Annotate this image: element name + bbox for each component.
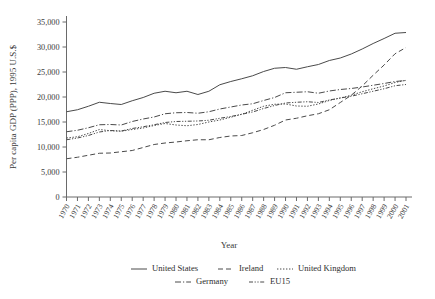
x-axis: 1970197119721973197419751976197719781979… <box>56 197 412 220</box>
legend-label: Germany <box>196 276 229 286</box>
y-tick-label: 0 <box>55 193 59 202</box>
legend-label: EU15 <box>270 276 290 286</box>
x-tick-label: 2001 <box>396 202 411 220</box>
y-tick-label: 10,000 <box>37 143 60 152</box>
chart-figure: 05,00010,00015,00020,00025,00030,00035,0… <box>0 0 435 299</box>
chart-series-group <box>67 33 407 159</box>
x-axis-title: Year <box>221 240 238 250</box>
y-axis: 05,00010,00015,00020,00025,00030,00035,0… <box>37 16 67 202</box>
y-tick-label: 25,000 <box>37 68 60 77</box>
legend-label: United States <box>152 263 199 273</box>
chart-legend: United StatesIrelandUnited KingdomGerman… <box>131 263 356 286</box>
y-tick-label: 5,000 <box>41 168 59 177</box>
line-chart: 05,00010,00015,00020,00025,00030,00035,0… <box>0 0 435 299</box>
y-tick-label: 15,000 <box>37 118 60 127</box>
y-tick-label: 35,000 <box>37 18 60 27</box>
series-line <box>67 81 407 132</box>
y-tick-label: 20,000 <box>37 93 60 102</box>
series-line <box>67 33 407 112</box>
legend-label: United Kingdom <box>298 263 356 273</box>
series-line <box>67 48 407 159</box>
y-tick-label: 30,000 <box>37 43 60 52</box>
legend-label: Ireland <box>239 263 264 273</box>
y-axis-title: Per capita GDP (PPP), 1995 U.S.$ <box>8 44 18 169</box>
series-line <box>67 80 407 138</box>
